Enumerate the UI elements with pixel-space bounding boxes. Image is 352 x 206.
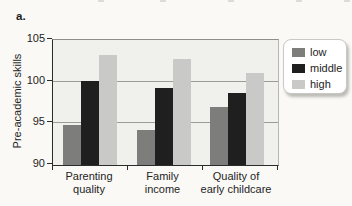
- category-label-line: early childcare: [180, 183, 292, 196]
- y-tick-label-90: 90: [19, 157, 45, 169]
- y-tick-label-105: 105: [19, 32, 45, 44]
- bar-low-quality-of-early-childcare: [210, 107, 228, 165]
- bar-middle-family-income: [155, 88, 173, 165]
- category-label-quality-of-early-childcare: Quality ofearly childcare: [180, 170, 292, 196]
- bar-high-family-income: [173, 59, 191, 165]
- bar-low-parenting-quality: [63, 125, 81, 165]
- legend-item-high: high: [292, 79, 346, 90]
- bar-group-parenting-quality: [63, 40, 117, 165]
- legend-swatch-low: [292, 48, 305, 57]
- y-tick-label-95: 95: [19, 115, 45, 127]
- bar-middle-parenting-quality: [81, 81, 99, 165]
- legend-swatch-high: [292, 80, 305, 89]
- y-tick-95: [47, 121, 52, 122]
- legend-label-low: low: [310, 47, 327, 58]
- bar-low-family-income: [137, 130, 155, 165]
- y-tick-label-100: 100: [19, 74, 45, 86]
- legend-item-middle: middle: [292, 63, 346, 74]
- plot-area: [52, 39, 279, 166]
- bar-high-parenting-quality: [99, 55, 117, 165]
- legend: lowmiddlehigh: [283, 39, 347, 94]
- legend-label-high: high: [310, 79, 331, 90]
- y-axis-title: Pre-academic skills: [11, 38, 23, 164]
- legend-label-middle: middle: [310, 63, 342, 74]
- bar-middle-quality-of-early-childcare: [228, 93, 246, 165]
- figure-panel: a. Pre-academic skills 9095100105 Parent…: [0, 0, 352, 206]
- bar-group-quality-of-early-childcare: [210, 40, 264, 165]
- bar-high-quality-of-early-childcare: [246, 73, 264, 166]
- legend-swatch-middle: [292, 64, 305, 73]
- y-tick-90: [47, 163, 52, 164]
- y-tick-105: [47, 38, 52, 39]
- bar-group-family-income: [137, 40, 191, 165]
- legend-item-low: low: [292, 47, 346, 58]
- y-tick-100: [47, 80, 52, 81]
- bar-chart: Pre-academic skills 9095100105 Parenting…: [0, 0, 352, 206]
- category-label-line: Quality of: [180, 170, 292, 183]
